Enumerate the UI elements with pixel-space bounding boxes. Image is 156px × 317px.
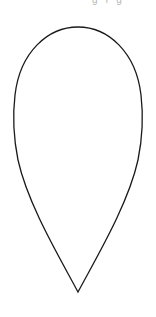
teardrop-diagram bbox=[0, 0, 156, 317]
teardrop-outline bbox=[14, 27, 142, 292]
